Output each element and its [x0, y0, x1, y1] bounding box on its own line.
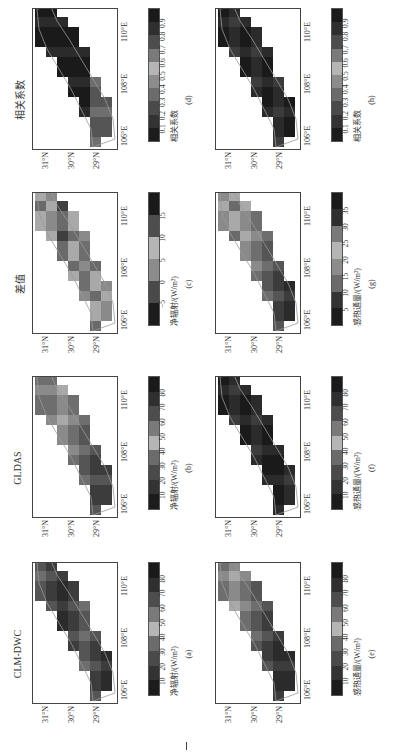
panel-g: 31°N 30°N 29°N 106°E 108°E 110°E 5101520… — [183, 190, 383, 378]
colorbar-tick: 5 — [341, 308, 350, 312]
colorbar-ticks: 1020304050607080 — [158, 564, 168, 696]
lat-label: 29°N — [92, 706, 101, 732]
lon-label: 106°E — [120, 675, 129, 705]
lat-label: 30°N — [67, 336, 76, 362]
colorbar-tick: 0.5 — [158, 71, 167, 80]
colorbar-tick: 50 — [341, 433, 350, 441]
colorbar-tick: 0.6 — [158, 58, 167, 67]
colorbar-tick: 0.7 — [341, 45, 350, 54]
lat-label: 30°N — [250, 520, 259, 546]
lat-label: 31°N — [224, 336, 233, 362]
colorbar-tick: 10 — [341, 678, 350, 686]
colorbar-label: 相关系数 — [168, 110, 179, 142]
lon-label: 108°E — [120, 437, 129, 467]
colorbar-tick: 10 — [158, 234, 167, 242]
colorbar-ticks: 0.10.20.30.40.50.60.70.80.9 — [341, 10, 351, 142]
colorbar-tick: 0.8 — [158, 32, 167, 41]
map-panel: GLDAS 31°N 30°N 29°N 106°E 108°E 110°E 1… — [0, 374, 200, 562]
map-frame — [32, 376, 118, 518]
colorbar-tick: 20 — [341, 663, 350, 671]
map-panel: 差值 31°N 30°N 29°N 106°E 108°E 110°E −505… — [0, 190, 200, 378]
map-frame — [215, 376, 301, 518]
basin-outline — [216, 377, 300, 517]
lon-label: 110°E — [120, 201, 129, 231]
basin-outline — [216, 563, 300, 703]
lon-label: 110°E — [303, 385, 312, 415]
colorbar-tick: 0.1 — [158, 124, 167, 133]
colorbar-tick: 40 — [341, 448, 350, 456]
lat-label: 31°N — [41, 336, 50, 362]
panel-d: 相关系数 31°N 30°N 29°N 106°E 108°E 110°E 0.… — [0, 6, 200, 194]
lat-label: 31°N — [41, 152, 50, 178]
lon-label: 110°E — [303, 571, 312, 601]
panel-b: GLDAS 31°N 30°N 29°N 106°E 108°E 110°E 1… — [0, 374, 200, 562]
colorbar-tick: 10 — [158, 678, 167, 686]
map-frame — [215, 8, 301, 150]
colorbar-tick: 10 — [341, 289, 350, 297]
lon-label: 108°E — [303, 69, 312, 99]
basin-outline — [33, 193, 117, 333]
colorbar-label: 相关系数 — [351, 110, 362, 142]
map-panel: 31°N 30°N 29°N 106°E 108°E 110°E 5101520… — [183, 190, 383, 378]
colorbar-tick: 0 — [158, 280, 167, 284]
colorbar-tick: 80 — [158, 389, 167, 397]
colorbar-tick: 30 — [341, 462, 350, 470]
colorbar-tick: 30 — [341, 648, 350, 656]
colorbar-tick: 15 — [341, 273, 350, 281]
colorbar-label: 净辐射/(W/m²) — [168, 460, 179, 510]
basin-outline — [33, 563, 117, 703]
colorbar-tick: 0.7 — [158, 45, 167, 54]
colorbar-tick: 5 — [158, 258, 167, 262]
lat-label: 30°N — [250, 706, 259, 732]
lon-label: 108°E — [303, 437, 312, 467]
colorbar-tick: 35 — [341, 207, 350, 215]
colorbar-tick: 20 — [341, 477, 350, 485]
lat-label: 30°N — [250, 152, 259, 178]
panel-caption: (g) — [367, 190, 376, 378]
colorbar-tick: 80 — [158, 575, 167, 583]
colorbar-tick: 30 — [158, 462, 167, 470]
colorbar-tick: 30 — [341, 223, 350, 231]
colorbar-ticks: −5051015 — [158, 194, 168, 326]
map-frame — [32, 562, 118, 704]
lat-label: 29°N — [92, 152, 101, 178]
lat-label: 31°N — [41, 520, 50, 546]
lat-label: 29°N — [92, 520, 101, 546]
colorbar-tick: 30 — [158, 648, 167, 656]
colorbar-tick: 70 — [341, 590, 350, 598]
colorbar-tick: 0.5 — [341, 71, 350, 80]
panel-f: 31°N 30°N 29°N 106°E 108°E 110°E 1020304… — [183, 374, 383, 562]
lat-label: 29°N — [275, 520, 284, 546]
lon-label: 106°E — [120, 305, 129, 335]
map-panel: 31°N 30°N 29°N 106°E 108°E 110°E 0.10.20… — [183, 6, 383, 194]
lat-label: 31°N — [41, 706, 50, 732]
lat-label: 31°N — [224, 152, 233, 178]
panel-title: 相关系数 — [12, 6, 27, 194]
lon-label: 106°E — [303, 121, 312, 151]
colorbar-tick: 20 — [158, 663, 167, 671]
colorbar-tick: 40 — [158, 634, 167, 642]
lon-label: 106°E — [120, 121, 129, 151]
map-frame — [215, 192, 301, 334]
lat-label: 29°N — [275, 336, 284, 362]
basin-outline — [216, 193, 300, 333]
colorbar-tick: 0.8 — [341, 32, 350, 41]
lat-label: 29°N — [275, 152, 284, 178]
colorbar-tick: 60 — [158, 604, 167, 612]
lat-label: 29°N — [92, 336, 101, 362]
map-panel: 相关系数 31°N 30°N 29°N 106°E 108°E 110°E 0.… — [0, 6, 200, 194]
lon-label: 110°E — [120, 385, 129, 415]
colorbar-tick: 0.4 — [158, 85, 167, 94]
lat-label: 31°N — [224, 706, 233, 732]
basin-outline — [33, 377, 117, 517]
colorbar-tick: 0.1 — [341, 124, 350, 133]
panel-title: 差值 — [12, 190, 27, 378]
lon-label: 108°E — [120, 623, 129, 653]
colorbar-tick: 0.3 — [158, 98, 167, 107]
lon-label: 108°E — [120, 69, 129, 99]
panel-title: GLDAS — [12, 374, 23, 562]
colorbar-tick: 60 — [341, 604, 350, 612]
panel-caption: (h) — [367, 6, 376, 194]
map-panel: CLM-DWC 31°N 30°N 29°N 106°E 108°E 110°E… — [0, 560, 200, 748]
colorbar-label: 感热通量/(W/m²) — [351, 638, 362, 696]
